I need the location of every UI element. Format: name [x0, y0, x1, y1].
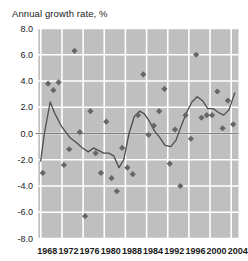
x-axis-tick-label: 2000	[207, 246, 227, 256]
y-axis-tick-label: -2.0	[17, 155, 33, 165]
y-axis-tick-label: 4.0	[20, 76, 33, 86]
annual-growth-rate-chart: Annual growth rate, % 8.06.04.02.00.0-2.…	[0, 0, 248, 261]
y-axis-tick-label: -8.0	[17, 234, 33, 244]
y-axis-ticks-group: 8.06.04.02.00.0-2.0-4.0-6.0-8.0	[17, 24, 33, 244]
x-axis-tick-label: 1980	[101, 246, 121, 256]
y-axis-tick-label: -6.0	[17, 207, 33, 217]
x-axis-tick-label: 1972	[58, 246, 78, 256]
x-axis-tick-label: 1992	[164, 246, 184, 256]
y-axis-tick-label: 0.0	[20, 129, 33, 139]
x-axis-ticks-group: 1968197219761980198819841992199620002004	[37, 246, 247, 256]
x-axis-tick-label: 1988	[122, 246, 142, 256]
x-axis-tick-label: 2004	[228, 246, 248, 256]
x-axis-tick-label: 1968	[37, 246, 57, 256]
y-axis-tick-label: 8.0	[20, 24, 33, 34]
y-axis-tick-label: -4.0	[17, 181, 33, 191]
x-axis-tick-label: 1976	[80, 246, 100, 256]
x-axis-tick-label: 1996	[185, 246, 205, 256]
y-axis-tick-label: 6.0	[20, 50, 33, 60]
chart-plot-area: 8.06.04.02.00.0-2.0-4.0-6.0-8.0 19681972…	[0, 0, 248, 261]
y-axis-tick-label: 2.0	[20, 102, 33, 112]
x-axis-tick-label: 1984	[143, 246, 163, 256]
